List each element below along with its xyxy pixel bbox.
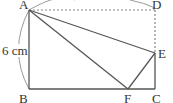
label-f: F [124,92,131,103]
label-d: D [152,0,161,11]
arc-top [29,0,155,10]
segment-ae [29,10,155,53]
label-c: C [152,92,161,103]
segment-af [29,10,128,89]
segment-fe [128,53,155,89]
label-a: A [19,0,28,11]
label-e: E [158,47,166,60]
label-b: B [19,92,28,103]
label-side-ab: 6 cm [2,44,28,57]
